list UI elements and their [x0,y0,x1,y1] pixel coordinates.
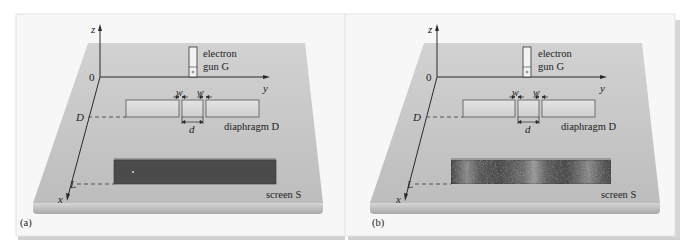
w-right-label: w [533,87,540,98]
D-position-label: D [412,111,421,123]
x-axis-label: x [395,193,401,205]
electron-gun-label-line1: electron [203,48,238,59]
screen-label: screen S [266,189,301,200]
diaphragm-label: diaphragm D [224,121,280,132]
w-left-label: w [176,87,183,98]
L-position-label: L [406,178,413,190]
screen-label: screen S [601,189,636,200]
w-left-label: w [512,87,519,98]
electron-gun-label-line2: gun G [538,61,564,72]
w-right-label: w [197,87,204,98]
D-position-label: D [75,111,84,123]
panel-a: z y x 0 D L electron gun G w w d diaphra… [0,0,345,245]
panel-caption: (a) [20,217,32,229]
electron-hit-dot [132,171,134,173]
origin-label: 0 [89,71,95,83]
z-axis-label: z [427,23,433,35]
electron-gun [523,47,531,77]
detection-screen [451,158,611,184]
x-axis-label: x [57,193,63,205]
panel-b: z y x 0 D L electron gun G w w d diaphra… [345,0,690,245]
diaphragm-label: diaphragm D [561,121,617,132]
electron-gun-label-line1: electron [538,48,573,59]
z-axis-label: z [90,23,96,35]
y-axis-label: y [599,82,605,94]
d-separation-label: d [189,123,195,135]
L-position-label: L [69,178,76,190]
electron-gun [189,47,197,77]
panel-caption: (b) [372,217,385,229]
electron-gun-label-line2: gun G [203,61,229,72]
origin-label: 0 [426,71,432,83]
interference-pattern [451,160,611,184]
diaphragm [126,100,259,117]
diaphragm [463,100,595,117]
y-axis-label: y [262,82,268,94]
d-separation-label: d [525,123,531,135]
detection-screen [114,158,276,184]
